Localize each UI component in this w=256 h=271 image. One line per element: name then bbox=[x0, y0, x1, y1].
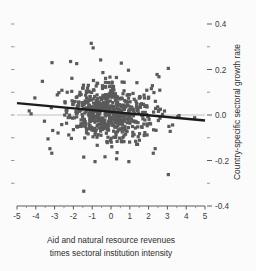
y-axis-label: Country-specific sectoral growth rate bbox=[232, 44, 242, 180]
x-tick-label: -3 bbox=[51, 212, 59, 221]
y-tick-label: 0.0 bbox=[215, 111, 227, 120]
x-axis-label-line1: Aid and natural resource revenues bbox=[47, 235, 175, 245]
x-tick-label: 3 bbox=[165, 212, 170, 221]
x-tick-label: 2 bbox=[146, 212, 151, 221]
x-tick-label: 4 bbox=[184, 212, 189, 221]
x-tick-label: -1 bbox=[89, 212, 97, 221]
x-tick-label: -2 bbox=[70, 212, 78, 221]
x-axis-label-line2: times sectoral institution intensity bbox=[50, 248, 173, 258]
x-tick-label: 0 bbox=[109, 212, 114, 221]
y-tick-label: -0.2 bbox=[215, 157, 230, 166]
y-tick-label: 0.4 bbox=[215, 20, 227, 29]
y-tick-label: -0.4 bbox=[215, 202, 230, 211]
scatter-plot-figure: -0.4-0.20.00.20.4 -5-4-3-2-1012345 Aid a… bbox=[0, 0, 256, 271]
plot-canvas: -0.4-0.20.00.20.4 -5-4-3-2-1012345 Aid a… bbox=[0, 0, 256, 271]
x-tick-label: 5 bbox=[203, 212, 208, 221]
figure-background bbox=[0, 0, 256, 271]
x-tick-label: -5 bbox=[13, 212, 21, 221]
x-tick-label: -4 bbox=[32, 212, 40, 221]
x-tick-label: 1 bbox=[128, 212, 133, 221]
y-tick-label: 0.2 bbox=[215, 66, 227, 75]
